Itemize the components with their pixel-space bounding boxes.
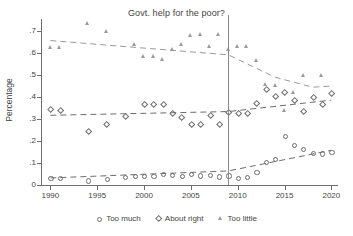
chart-legend: Too muchAbout rightToo little	[0, 214, 353, 223]
fit-line-about-right	[50, 100, 331, 115]
x-tick-label: 2010	[218, 191, 258, 200]
chart-title: Govt. help for the poor?	[0, 8, 353, 18]
y-tick-label: .4	[12, 92, 36, 101]
x-tick	[144, 186, 145, 190]
y-tick-label: .2	[12, 136, 36, 145]
legend-marker-glyph	[218, 216, 222, 220]
x-tick-label: 2020	[311, 191, 351, 200]
legend-item-about-right[interactable]: About right	[155, 214, 204, 223]
x-tick	[191, 186, 192, 190]
legend-item-too-little[interactable]: Too little	[218, 214, 257, 223]
legend-label: Too little	[228, 214, 257, 223]
legend-marker-glyph	[155, 215, 163, 223]
x-tick	[285, 186, 286, 190]
y-tick	[37, 185, 41, 186]
legend-label: About right	[165, 214, 204, 223]
y-tick-label: .5	[12, 70, 36, 79]
x-axis-line	[41, 185, 338, 186]
legend-label: Too much	[106, 214, 141, 223]
legend-marker-glyph	[97, 217, 102, 222]
x-tick-label: 2005	[171, 191, 211, 200]
x-tick-label: 2000	[124, 191, 164, 200]
circle-marker-icon	[96, 216, 102, 222]
fit-line-too-little	[50, 41, 331, 88]
diamond-marker-icon	[155, 216, 161, 222]
x-tick	[97, 186, 98, 190]
fit-lines-layer	[41, 19, 337, 185]
x-tick	[331, 186, 332, 190]
plot-area	[41, 19, 337, 185]
triangle-marker-icon	[218, 216, 224, 222]
chart-container: Govt. help for the poor? Percentage 0.1.…	[0, 0, 353, 236]
y-tick-label: .6	[12, 48, 36, 57]
legend-item-too-much[interactable]: Too much	[96, 214, 141, 223]
y-tick-label: .1	[12, 158, 36, 167]
vertical-reference-line	[228, 15, 229, 185]
x-tick	[50, 186, 51, 190]
fit-line-too-much	[50, 150, 331, 178]
x-tick	[238, 186, 239, 190]
y-tick-label: .3	[12, 114, 36, 123]
y-tick-label: .7	[12, 26, 36, 35]
y-tick-label: 0	[12, 180, 36, 189]
x-tick-label: 1995	[77, 191, 117, 200]
x-tick-label: 1990	[30, 191, 70, 200]
x-tick-label: 2015	[265, 191, 305, 200]
